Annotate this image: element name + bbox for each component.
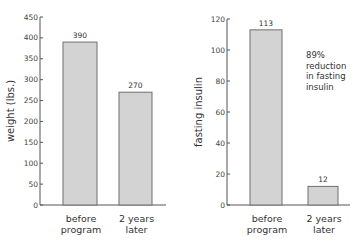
y-tick-label: 60 (215, 108, 225, 117)
x-category-label: program (247, 224, 288, 235)
y-tick-label: 350 (24, 54, 39, 63)
annotation-text: in fasting (306, 71, 346, 81)
bar-value-label: 12 (318, 175, 328, 184)
y-tick-label: 150 (24, 138, 39, 147)
y-tick-label: 40 (215, 139, 225, 148)
annotation-text: reduction (306, 61, 346, 71)
y-tick-label: 250 (24, 96, 39, 105)
x-category-label: before (66, 213, 97, 224)
x-category-label: later (313, 224, 335, 235)
bar (119, 92, 152, 205)
y-tick-label: 100 (211, 46, 226, 55)
bar (308, 186, 338, 205)
annotation-text: 89% (306, 50, 325, 60)
bar (63, 42, 97, 205)
y-tick-label: 100 (24, 159, 39, 168)
bar (250, 30, 282, 205)
annotation-text: insulin (306, 82, 334, 92)
y-tick-label: 0 (220, 201, 225, 210)
y-tick-label: 450 (24, 13, 39, 22)
y-tick-label: 120 (211, 15, 226, 24)
x-category-label: program (61, 224, 102, 235)
bar-value-label: 270 (128, 81, 143, 90)
y-tick-label: 400 (24, 33, 39, 42)
y-tick-label: 200 (24, 117, 39, 126)
weight-bar-chart: 050100150200250300350400450weight (lbs.)… (5, 13, 166, 235)
y-tick-label: 300 (24, 75, 39, 84)
y-axis-title: weight (lbs.) (5, 80, 16, 142)
x-category-label: 2 years (306, 213, 341, 224)
x-category-label: 2 years (119, 213, 154, 224)
y-axis-title: fasting insulin (193, 77, 204, 147)
y-tick-label: 80 (215, 77, 225, 86)
y-tick-label: 50 (28, 180, 38, 189)
bar-value-label: 113 (259, 19, 274, 28)
x-category-label: later (126, 224, 148, 235)
y-tick-label: 20 (215, 170, 225, 179)
insulin-bar-chart: 020406080100120fasting insulin113beforep… (193, 15, 350, 235)
x-category-label: before (252, 213, 283, 224)
bar-value-label: 390 (73, 31, 88, 40)
charts-canvas: 050100150200250300350400450weight (lbs.)… (0, 0, 361, 246)
y-tick-label: 0 (33, 201, 38, 210)
